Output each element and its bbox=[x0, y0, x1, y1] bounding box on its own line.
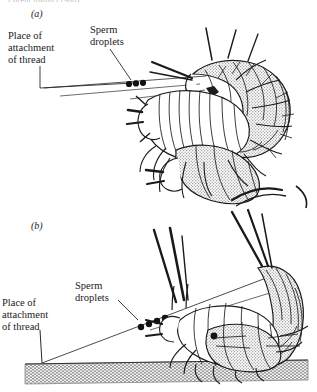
panel-b-sperm-leader bbox=[118, 300, 138, 320]
panel-a-sperm-leader bbox=[110, 49, 131, 80]
figure-container: Lorem ipsum (1968) (a) Place ofattachmen… bbox=[0, 0, 317, 392]
panel-a-sperm-droplets bbox=[126, 80, 146, 87]
panel-b-attachment-leader bbox=[40, 330, 42, 363]
panel-b-artwork bbox=[25, 186, 308, 384]
panel-a-artwork bbox=[40, 28, 294, 204]
figure-artwork bbox=[0, 0, 317, 392]
